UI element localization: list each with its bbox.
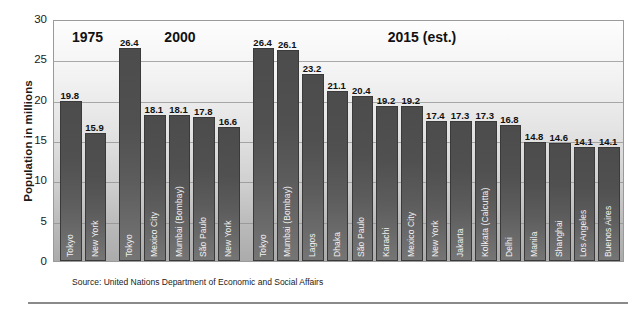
bar-value-label: 19.8 bbox=[54, 90, 86, 101]
bar bbox=[119, 48, 141, 261]
bar-category-label: Manila bbox=[529, 231, 539, 257]
bar-category-label: Karachi bbox=[381, 227, 391, 257]
bar-category-label: Mexico City bbox=[406, 212, 416, 257]
bar-value-label: 26.4 bbox=[113, 37, 145, 48]
population-bar-chart-figure: Population in millions 051015202530 Toky… bbox=[0, 0, 641, 312]
bar-category-label: New York bbox=[430, 220, 440, 257]
bar-value-label: 15.9 bbox=[79, 122, 111, 133]
bar-category-label: New York bbox=[90, 220, 100, 257]
bar-category-label: Lagos bbox=[307, 233, 317, 257]
bar-value-label: 16.8 bbox=[494, 114, 526, 125]
bar-value-label: 14.1 bbox=[592, 136, 624, 147]
bar-category-label: São Paulo bbox=[198, 217, 208, 257]
y-tick-label: 25 bbox=[7, 53, 47, 65]
bar-category-label: Buenos Aires bbox=[603, 206, 613, 257]
y-tick-label: 15 bbox=[7, 134, 47, 146]
y-tick-label: 30 bbox=[7, 13, 47, 25]
bar-category-label: Mexico City bbox=[149, 212, 159, 257]
bar-category-label: Los Angeles bbox=[578, 210, 588, 257]
bar-value-label: 16.6 bbox=[212, 116, 244, 127]
bar-value-label: 23.2 bbox=[296, 63, 328, 74]
bar-category-label: Dhaka bbox=[332, 232, 342, 257]
source-note: Source: United Nations Department of Eco… bbox=[72, 277, 323, 287]
bar-category-label: Mumbai (Bombay) bbox=[174, 186, 184, 257]
bar-category-label: Shanghai bbox=[554, 220, 564, 257]
y-tick-label: 10 bbox=[7, 174, 47, 186]
y-tick-label: 5 bbox=[7, 215, 47, 227]
bar-value-label: 19.2 bbox=[395, 95, 427, 106]
bar-category-label: Tokyo bbox=[65, 234, 75, 257]
bar-fill bbox=[254, 49, 274, 260]
bar-category-label: Mumbai (Bombay) bbox=[282, 186, 292, 257]
bar-fill bbox=[303, 75, 323, 260]
bar-category-label: New York bbox=[223, 220, 233, 257]
bar-category-label: Tokyo bbox=[258, 234, 268, 257]
bar bbox=[253, 48, 275, 261]
bar-value-label: 26.1 bbox=[271, 39, 303, 50]
bar-fill bbox=[120, 49, 140, 260]
bottom-divider bbox=[28, 302, 628, 304]
y-tick-label: 20 bbox=[7, 94, 47, 106]
bar-category-label: Kolkata (Calcutta) bbox=[480, 188, 490, 257]
bar-category-label: Tokyo bbox=[124, 234, 134, 257]
bar-category-label: São Paulo bbox=[356, 217, 366, 257]
y-tick-label: 0 bbox=[7, 255, 47, 267]
bar-category-label: Delhi bbox=[504, 237, 514, 257]
bar-category-label: Jakarta bbox=[455, 228, 465, 257]
